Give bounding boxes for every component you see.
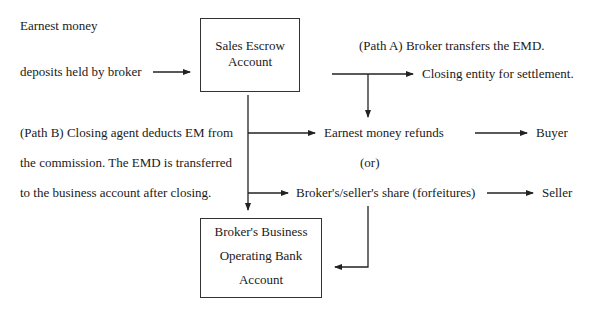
escrow-box-line-2: Account [201,54,299,70]
forfeitures-label: Broker's/seller's share (forfeitures) [296,185,475,201]
path-b-line-2: the commission. The EMD is transferred [20,155,232,171]
sales-escrow-account-box: Sales Escrow Account [200,18,300,92]
operating-box-line-1: Broker's Business [201,224,321,240]
buyer-label: Buyer [536,125,568,141]
path-a-label: (Path A) Broker transfers the EMD. [359,38,545,54]
earnest-money-refunds: Earnest money refunds [324,125,444,141]
or-label: (or) [360,155,380,171]
operating-bank-account-box: Broker's Business Operating Bank Account [200,218,322,298]
path-b-line-3: to the business account after closing. [20,185,211,201]
escrow-box-line-1: Sales Escrow [201,38,299,54]
path-b-line-1: (Path B) Closing agent deducts EM from [20,125,233,141]
seller-label: Seller [542,185,572,201]
source-line-2: deposits held by broker [20,64,142,80]
operating-box-line-3: Account [201,272,321,288]
path-a-target: Closing entity for settlement. [422,66,574,82]
source-line-1: Earnest money [20,18,98,34]
operating-box-line-2: Operating Bank [201,248,321,264]
arrow-forfeitures-to-operating [335,206,368,267]
